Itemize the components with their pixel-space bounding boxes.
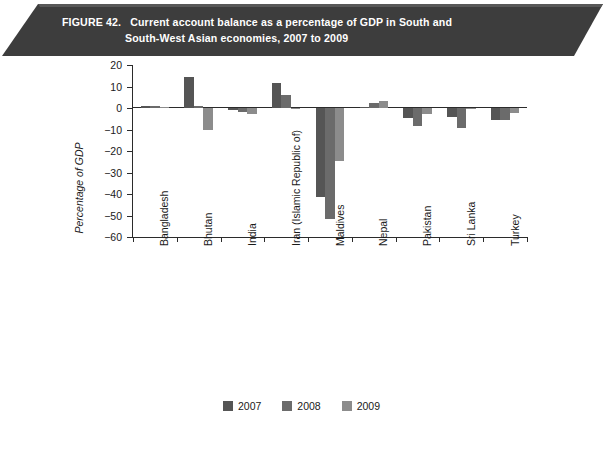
x-axis-category-label: Bhutan xyxy=(203,213,214,246)
y-axis-tick-mark xyxy=(127,87,132,88)
bar xyxy=(447,108,457,117)
bar xyxy=(491,108,501,120)
bar xyxy=(335,108,345,161)
x-axis-tick-mark xyxy=(177,237,178,242)
y-axis-tick-mark xyxy=(127,194,132,195)
bar xyxy=(510,108,520,113)
bar xyxy=(194,106,204,108)
bar xyxy=(281,95,291,108)
bar-chart: Percentage of GDP 20100−10−20−30−40−50−6… xyxy=(0,56,603,449)
bar xyxy=(466,108,476,109)
x-axis-tick-mark xyxy=(396,237,397,242)
x-axis-tick-mark xyxy=(133,237,134,242)
figure-title-part-1: Current account balance as a percentage … xyxy=(130,16,452,28)
bar xyxy=(316,108,326,197)
x-axis-category-label: Maldives xyxy=(335,205,346,246)
bar xyxy=(228,108,238,110)
y-axis-tick-mark xyxy=(127,173,132,174)
bar xyxy=(291,108,301,109)
chart-legend: 200720082009 xyxy=(0,401,603,412)
bar xyxy=(160,107,170,108)
legend-color-swatch xyxy=(282,401,292,411)
figure-number-label: FIGURE 42. xyxy=(62,16,121,28)
x-axis-tick-mark xyxy=(264,237,265,242)
x-axis-category-label: Nepal xyxy=(378,219,389,246)
y-axis-tick-mark xyxy=(127,108,132,109)
figure-title-text: FIGURE 42.Current account balance as a p… xyxy=(62,15,532,46)
y-axis-tick-label: −30 xyxy=(84,168,122,179)
legend-item[interactable]: 2009 xyxy=(342,401,380,412)
legend-item[interactable]: 2007 xyxy=(223,401,261,412)
y-axis-tick-mark xyxy=(127,65,132,66)
bar xyxy=(325,108,335,219)
bar xyxy=(379,101,389,108)
bar xyxy=(457,108,467,128)
bar xyxy=(369,103,379,108)
legend-label: 2007 xyxy=(238,401,261,412)
y-axis-tick-label: −10 xyxy=(84,125,122,136)
y-axis-tick-label: −60 xyxy=(84,232,122,243)
x-axis-tick-mark xyxy=(483,237,484,242)
x-axis-category-label: Bangladesh xyxy=(159,191,170,246)
y-axis-tick-label: 20 xyxy=(84,60,122,71)
x-axis-category-label: India xyxy=(247,223,258,246)
y-axis-tick-mark xyxy=(127,130,132,131)
x-axis-tick-mark xyxy=(221,237,222,242)
x-axis-tick-mark xyxy=(352,237,353,242)
legend-label: 2008 xyxy=(297,401,320,412)
bar xyxy=(272,83,282,108)
y-axis-tick-label: −20 xyxy=(84,146,122,157)
y-axis-tick-label: −40 xyxy=(84,189,122,200)
legend-label: 2009 xyxy=(357,401,380,412)
y-axis-tick-mark xyxy=(127,237,132,238)
x-axis-category-label: Pakistan xyxy=(422,206,433,246)
legend-color-swatch xyxy=(223,401,233,411)
bar xyxy=(403,108,413,118)
y-axis-tick-label: −50 xyxy=(84,211,122,222)
bar xyxy=(184,77,194,108)
bar xyxy=(500,108,510,120)
bar xyxy=(413,108,423,126)
figure-title-line-2: South-West Asian economies, 2007 to 2009 xyxy=(62,31,532,47)
bar xyxy=(360,107,370,108)
bar xyxy=(247,108,257,114)
y-axis-tick-label: 0 xyxy=(84,103,122,114)
bar xyxy=(141,106,151,108)
bar xyxy=(238,108,248,112)
bar xyxy=(203,108,213,130)
y-axis-tick-mark xyxy=(127,151,132,152)
x-axis-category-label: Iran (Islamic Republic of) xyxy=(291,130,302,246)
x-axis-tick-mark xyxy=(439,237,440,242)
figure-title-banner: FIGURE 42.Current account balance as a p… xyxy=(0,4,603,56)
x-axis-tick-mark xyxy=(308,237,309,242)
bar xyxy=(422,108,432,114)
legend-item[interactable]: 2008 xyxy=(282,401,320,412)
x-axis-category-label: Sri Lanka xyxy=(466,202,477,246)
y-axis-tick-mark xyxy=(127,216,132,217)
y-axis-tick-label: 10 xyxy=(84,82,122,93)
bar xyxy=(150,106,160,108)
figure-title-line-1: FIGURE 42.Current account balance as a p… xyxy=(62,15,532,31)
x-axis-tick-mark xyxy=(527,237,528,242)
legend-color-swatch xyxy=(342,401,352,411)
x-axis-category-label: Turkey xyxy=(510,214,521,246)
